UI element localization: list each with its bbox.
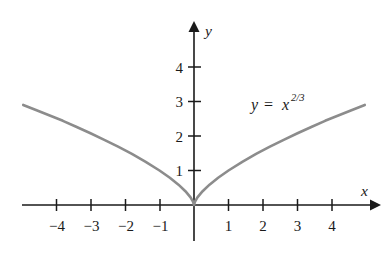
x-axis-arrow-icon <box>370 200 381 211</box>
equation-base: x <box>281 96 289 113</box>
y-tick-label-4: 4 <box>176 60 184 76</box>
graph-svg: −4 −3 −2 −1 1 2 3 4 1 2 3 4 y x y = x 2/… <box>0 0 388 253</box>
y-tick-label-3: 3 <box>176 94 184 110</box>
equation-exponent: 2/3 <box>291 92 304 103</box>
y-tick-label-1: 1 <box>176 163 184 179</box>
y-tick-labels: 1 2 3 4 <box>176 60 184 180</box>
x-axis <box>22 200 381 211</box>
equation-annotation: y = x 2/3 <box>249 92 304 114</box>
x-tick-label--4: −4 <box>49 218 65 234</box>
x-tick-label-1: 1 <box>225 218 233 234</box>
y-tick-label-2: 2 <box>176 129 184 145</box>
x-tick-labels: −4 −3 −2 −1 1 2 3 4 <box>49 218 336 234</box>
x-tick-label-4: 4 <box>328 218 336 234</box>
equation-lhs: y <box>249 96 259 114</box>
y-axis-label: y <box>203 22 212 39</box>
equation-operator: = <box>264 96 273 113</box>
x-tick-label--3: −3 <box>84 218 100 234</box>
x-tick-label-3: 3 <box>294 218 302 234</box>
x-tick-label-2: 2 <box>259 218 267 234</box>
x-axis-label: x <box>360 182 368 199</box>
x-tick-label--2: −2 <box>118 218 134 234</box>
x-tick-label--1: −1 <box>153 218 169 234</box>
y-axis-arrow-icon <box>189 21 200 32</box>
graph-figure: −4 −3 −2 −1 1 2 3 4 1 2 3 4 y x y = x 2/… <box>0 0 388 253</box>
y-axis <box>189 21 200 241</box>
